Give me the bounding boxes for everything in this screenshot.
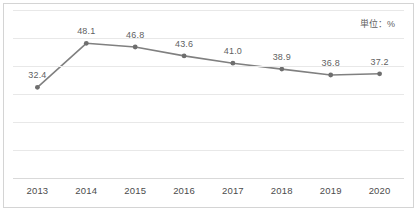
data-label: 36.8	[322, 58, 340, 68]
x-axis-tick-label: 2020	[369, 185, 391, 196]
plot-area: 32.448.146.843.641.038.936.837.2	[13, 10, 404, 178]
x-axis-tick-label: 2019	[320, 185, 342, 196]
data-label: 46.8	[126, 30, 144, 40]
gridline	[13, 122, 404, 123]
gridline	[13, 38, 404, 39]
data-label: 32.4	[28, 70, 46, 80]
x-axis-tick-label: 2015	[124, 185, 146, 196]
data-point-marker	[133, 45, 138, 50]
data-point-marker	[35, 85, 40, 90]
gridline	[13, 94, 404, 95]
data-point-marker	[84, 41, 89, 46]
unit-annotation: 単位：%	[360, 17, 395, 30]
x-axis-tick-label: 2014	[75, 185, 97, 196]
data-label: 48.1	[77, 26, 95, 36]
x-axis-tick-label: 2017	[222, 185, 244, 196]
gridline	[13, 66, 404, 67]
data-point-marker	[279, 67, 284, 72]
x-axis-tick-label: 2018	[271, 185, 293, 196]
data-label: 43.6	[175, 39, 193, 49]
chart-container: 32.448.146.843.641.038.936.837.2 2013201…	[0, 0, 417, 211]
x-axis-line	[13, 178, 404, 179]
x-axis-tick-label: 2013	[26, 185, 48, 196]
data-label: 37.2	[370, 57, 388, 67]
data-point-marker	[231, 61, 236, 66]
data-label: 41.0	[224, 46, 242, 56]
gridline	[13, 10, 404, 11]
data-point-marker	[328, 73, 333, 78]
gridline	[13, 150, 404, 151]
data-label: 38.9	[273, 52, 291, 62]
x-axis-tick-label: 2016	[173, 185, 195, 196]
data-point-marker	[377, 71, 382, 76]
data-point-marker	[182, 54, 187, 59]
x-axis-labels: 20132014201520162017201820192020	[13, 182, 404, 202]
